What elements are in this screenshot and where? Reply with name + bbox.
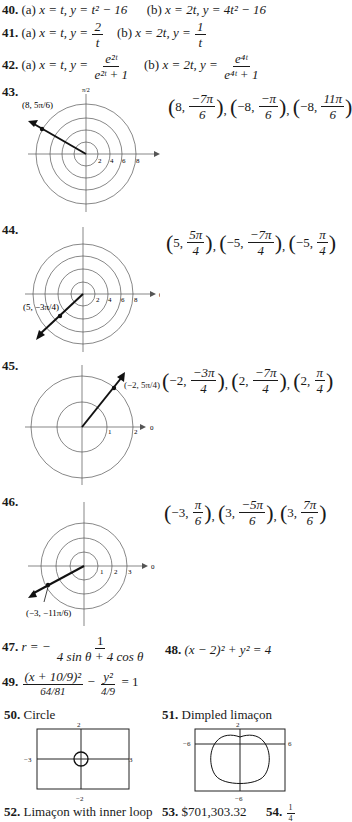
svg-text:(5, −3π/4): (5, −3π/4) — [23, 302, 59, 312]
svg-text:0: 0 — [150, 424, 154, 432]
problem-number: 46. — [2, 494, 18, 510]
fraction: e²ᵗe²ᵗ + 1 — [92, 52, 130, 81]
problem-49: 49. (x + 10/9)²64/81 − y²4/9 = 1 — [2, 670, 138, 697]
svg-text:4: 4 — [110, 157, 114, 165]
svg-text:1: 1 — [108, 428, 112, 436]
svg-text:2: 2 — [96, 296, 100, 304]
svg-text:(8, 5π/6): (8, 5π/6) — [22, 100, 53, 110]
problem-number: 43. — [2, 84, 18, 100]
svg-text:3: 3 — [128, 568, 132, 576]
svg-text:6: 6 — [121, 296, 125, 304]
fraction: 14 sin θ + 4 cos θ — [55, 634, 146, 663]
problem-54: 54. 14 — [266, 804, 296, 822]
problem-52: 52. Limaçon with inner loop — [4, 804, 152, 820]
answer-b: x = 2t, y = 4t² − 16 — [165, 2, 266, 17]
svg-text:8: 8 — [134, 296, 138, 304]
svg-text:2: 2 — [134, 428, 138, 436]
svg-text:(−3, −11π/6): (−3, −11π/6) — [26, 608, 71, 618]
problem-42: 42. (a) x = t, y = e²ᵗe²ᵗ + 1 (b) x = 2t… — [2, 52, 261, 81]
answers-45: (−2, −3π4), (2, −7π4), (2, π4) — [162, 366, 333, 395]
svg-text:8: 8 — [136, 157, 140, 165]
polar-graph-44: 0 24 68 (5, −3π/4) — [20, 222, 160, 352]
fraction: y²4/9 — [99, 670, 117, 697]
fraction: 14 — [287, 804, 295, 822]
fraction: (x + 10/9)²64/81 — [23, 670, 84, 697]
svg-text:2: 2 — [98, 157, 102, 165]
graph-51-limacon — [192, 724, 292, 799]
svg-text:1: 1 — [100, 568, 104, 576]
problem-number: 44. — [2, 222, 18, 238]
problem-41: 41. (a) x = t, y = 2t (b) x = 2t, y = 1t — [2, 20, 207, 49]
svg-text:π/2: π/2 — [82, 87, 90, 93]
problem-number: 40. — [2, 2, 18, 17]
problem-47: 47. r = − 14 sin θ + 4 cos θ — [2, 634, 146, 663]
point-label-45: (−2, 5π/4) — [124, 380, 160, 390]
problem-50: 50. Circle — [4, 707, 55, 723]
polar-graph-46: 0 123 (−3, −11π/6) — [20, 494, 160, 634]
fraction: 1t — [195, 20, 206, 49]
problem-40: 40. (a) x = t, y = t² − 16 (b) x = 2t, y… — [2, 2, 266, 18]
answers-43: (8, −7π6), (−8, −π6), (−8, 11π6) — [168, 92, 352, 121]
answers-46: (−3, π6), (3, −5π6), (3, 7π6) — [164, 498, 327, 527]
answer-a: x = t, y = t² − 16 — [39, 2, 127, 17]
fraction: 2t — [92, 20, 103, 49]
svg-text:2: 2 — [114, 568, 118, 576]
polar-graph-43: π/2 0 24 68 (8, 5π/6) — [20, 84, 160, 214]
answers-44: (5, 5π4), (−5, −7π4), (−5, π4) — [166, 228, 336, 257]
svg-text:4: 4 — [108, 296, 112, 304]
graph-50-circle — [28, 724, 138, 799]
svg-text:0: 0 — [151, 563, 155, 571]
problem-48: 48. (x − 2)² + y² = 4 — [165, 642, 271, 658]
svg-text:6: 6 — [122, 157, 126, 165]
problem-53: 53. $701,303.32 — [162, 804, 247, 820]
svg-text:0: 0 — [159, 291, 160, 299]
problem-51: 51. Dimpled limaçon — [162, 707, 272, 723]
fraction: e⁴ᵗe⁴ᵗ + 1 — [222, 52, 260, 81]
problem-number: 45. — [2, 358, 18, 374]
